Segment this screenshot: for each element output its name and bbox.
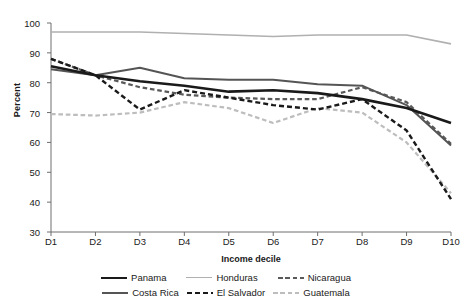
legend-swatch-honduras-icon (186, 273, 212, 283)
legend-label: Honduras (216, 273, 257, 283)
legend-label: Guatemala (303, 288, 349, 298)
x-tick-label: D3 (120, 236, 160, 247)
y-tick-label: 60 (0, 137, 40, 148)
legend-item-honduras[interactable]: Honduras (186, 273, 257, 283)
legend-item-guatemala[interactable]: Guatemala (273, 288, 349, 298)
y-axis-tick-labels: 30405060708090100 (0, 0, 48, 304)
y-tick-label: 70 (0, 107, 40, 118)
legend-label: Panama (131, 273, 166, 283)
legend-item-nicaragua[interactable]: Nicaragua (278, 273, 351, 283)
x-tick-label: D8 (342, 236, 382, 247)
chart-legend: PanamaHondurasNicaragua Costa RicaEl Sal… (0, 270, 452, 304)
series-line-honduras (51, 32, 451, 44)
x-tick-label: D5 (209, 236, 249, 247)
legend-label: Nicaragua (308, 273, 351, 283)
y-tick-label: 100 (0, 18, 40, 29)
x-tick-label: D7 (298, 236, 338, 247)
legend-swatch-el-salvador-icon (187, 288, 213, 298)
y-tick-label: 90 (0, 47, 40, 58)
legend-swatch-panama-icon (101, 273, 127, 283)
x-tick-label: D2 (75, 236, 115, 247)
legend-label: Costa Rica (132, 288, 178, 298)
series-line-guatemala (51, 102, 451, 193)
x-tick-label: D9 (387, 236, 427, 247)
y-tick-label: 80 (0, 77, 40, 88)
legend-item-panama[interactable]: Panama (101, 273, 166, 283)
legend-swatch-costa-rica-icon (102, 288, 128, 298)
legend-item-costa-rica[interactable]: Costa Rica (102, 288, 178, 298)
y-tick-label: 40 (0, 197, 40, 208)
x-tick-label: D4 (164, 236, 204, 247)
axis-spines (51, 23, 451, 232)
legend-row-top: PanamaHondurasNicaragua (0, 270, 452, 285)
legend-swatch-guatemala-icon (273, 288, 299, 298)
x-tick-label: D1 (31, 236, 71, 247)
x-tick-label: D10 (431, 236, 464, 247)
legend-item-el-salvador[interactable]: El Salvador (187, 288, 266, 298)
y-tick-label: 50 (0, 167, 40, 178)
legend-row-bottom: Costa RicaEl SalvadorGuatemala (0, 285, 452, 300)
series-lines (51, 23, 451, 232)
legend-label: El Salvador (217, 288, 266, 298)
x-axis-title: Income decile (51, 254, 451, 264)
legend-swatch-nicaragua-icon (278, 273, 304, 283)
plot-area (51, 23, 451, 232)
x-tick-label: D6 (253, 236, 293, 247)
